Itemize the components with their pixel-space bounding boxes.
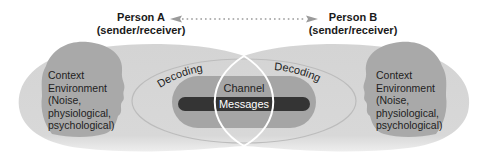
context-line: psychological): [48, 119, 115, 132]
context-line: psychological): [376, 119, 443, 132]
person-b-title: Person B (sender/receiver): [298, 11, 408, 37]
context-line: (Noise,: [48, 94, 115, 107]
messages-label: Messages: [219, 98, 270, 110]
context-line: Context: [376, 69, 443, 82]
person-b-context: Context Environment (Noise, physiologica…: [376, 69, 443, 132]
context-line: Environment: [376, 82, 443, 95]
context-line: (Noise,: [376, 94, 443, 107]
person-a-role: (sender/receiver): [86, 24, 196, 37]
context-line: Environment: [48, 82, 115, 95]
person-b-role: (sender/receiver): [298, 24, 408, 37]
person-a-name: Person A: [86, 11, 196, 24]
person-a-context: Context Environment (Noise, physiologica…: [48, 69, 115, 132]
context-line: Context: [48, 69, 115, 82]
context-line: physiological,: [48, 107, 115, 120]
person-a-title: Person A (sender/receiver): [86, 11, 196, 37]
person-b-name: Person B: [298, 11, 408, 24]
channel-label: Channel: [224, 82, 265, 94]
context-line: physiological,: [376, 107, 443, 120]
